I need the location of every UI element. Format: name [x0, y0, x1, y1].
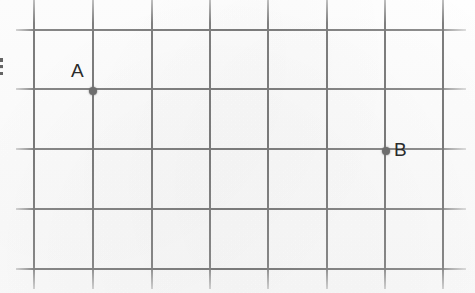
grid-line-horizontal-3	[16, 208, 466, 210]
point-marker-a	[89, 87, 97, 95]
grid-line-vertical-6	[384, 0, 386, 289]
grid-diagram-canvas: AB	[0, 0, 475, 293]
grid-line-vertical-1	[92, 0, 94, 289]
cropped-character-fragment-icon	[0, 58, 3, 75]
grid-line-horizontal-1	[16, 88, 466, 90]
grid-line-horizontal-4	[16, 268, 466, 270]
point-marker-b	[382, 147, 390, 155]
point-label-a: A	[71, 61, 84, 80]
grid-line-vertical-2	[151, 0, 153, 289]
grid-line-vertical-3	[209, 0, 211, 289]
grid-line-horizontal-0	[16, 29, 466, 31]
grid-line-vertical-4	[267, 0, 269, 289]
point-label-b: B	[394, 140, 407, 159]
grid-line-vertical-0	[33, 0, 35, 289]
grid-line-vertical-5	[326, 0, 328, 289]
grid-line-vertical-7	[442, 0, 444, 289]
